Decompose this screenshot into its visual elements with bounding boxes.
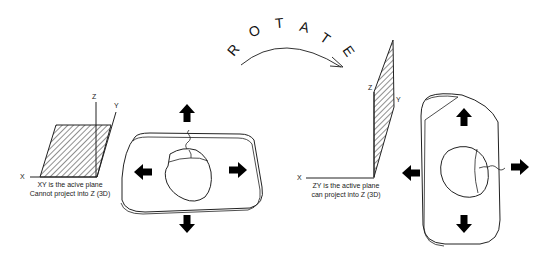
left-x-label: X (20, 173, 25, 180)
diagram-canvas: R O T A T E Z Y X XY is the acive plane … (0, 0, 551, 260)
left-caption: XY is the acive plane Cannot project int… (20, 180, 120, 198)
arrow-up-icon (456, 108, 472, 126)
left-caption-line2: Cannot project into Z (3D) (20, 189, 120, 198)
arrow-left-icon (134, 164, 152, 180)
right-y-label: Y (396, 96, 401, 103)
arrow-down-icon (456, 215, 472, 233)
arrow-left-icon (402, 165, 420, 181)
arrow-up-icon (179, 104, 195, 122)
rotate-letter-t1: T (274, 15, 284, 32)
right-mousepad-figure (402, 94, 529, 246)
left-caption-line1: XY is the acive plane (20, 180, 120, 189)
xy-plane-hatched (40, 125, 111, 177)
right-x-label: X (297, 174, 302, 181)
right-caption-line2: can project into Z (3D) (298, 190, 394, 199)
right-caption: ZY is the active plane can project into … (298, 181, 394, 199)
right-z-label: Z (368, 84, 372, 91)
arrow-down-icon (179, 215, 195, 233)
rotate-arc-arrow (241, 48, 343, 67)
diagram-svg (0, 0, 551, 260)
left-y-label: Y (114, 102, 119, 109)
left-z-label: Z (92, 93, 96, 100)
left-xy-plane-figure (30, 102, 116, 177)
arrow-right-icon (511, 159, 529, 175)
right-caption-line1: ZY is the active plane (298, 181, 394, 190)
left-mousepad-figure (121, 104, 263, 233)
arrow-right-icon (229, 162, 247, 178)
right-zy-plane-figure (306, 40, 394, 178)
